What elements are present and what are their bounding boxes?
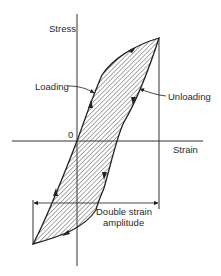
unloading-label: Unloading [168, 91, 211, 102]
amplitude-label-line2: amplitude [103, 217, 144, 228]
hysteresis-diagram: Stress Strain 0 Loading Unloading Double… [0, 0, 221, 276]
strain-axis-label: Strain [173, 144, 198, 155]
stress-axis-label: Stress [49, 23, 76, 34]
loading-label: Loading [35, 81, 69, 92]
loading-leader [68, 86, 94, 93]
origin-label: 0 [68, 129, 73, 140]
amplitude-label-line1: Double strain [96, 206, 152, 217]
unloading-leader [140, 89, 166, 96]
